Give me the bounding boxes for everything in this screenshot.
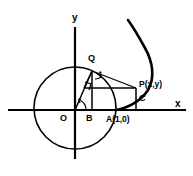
angle-label-origin: t [78, 97, 81, 105]
point-label-Q: Q [88, 54, 95, 63]
point-label-C: C [139, 94, 146, 103]
involute-diagram: y x O B A(1,0) Q P(x,y) C t t [0, 0, 193, 176]
angle-label-Q: t [99, 70, 102, 78]
point-label-A: A(1,0) [106, 115, 130, 124]
point-label-P: P(x,y) [139, 80, 162, 89]
x-axis-label: x [175, 99, 181, 109]
diagram-canvas [0, 0, 193, 176]
point-label-B: B [86, 114, 93, 123]
y-axis-label: y [72, 13, 78, 23]
point-label-O: O [60, 114, 67, 123]
involute-curve [116, 20, 152, 110]
